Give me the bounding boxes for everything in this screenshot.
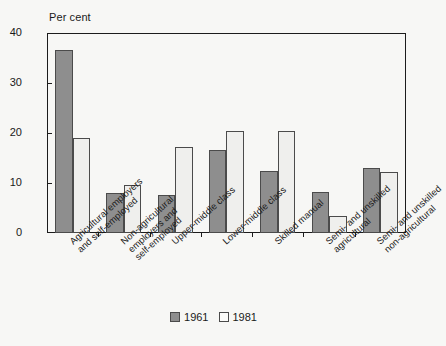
legend-label-1961: 1961 xyxy=(184,311,208,323)
y-axis-title: Per cent xyxy=(49,11,91,23)
bar-group xyxy=(47,33,98,233)
bar-1961-7 xyxy=(363,168,381,233)
x-axis-tick xyxy=(355,233,356,237)
legend-label-1981: 1981 xyxy=(233,311,257,323)
y-axis-tick-label: 20 xyxy=(0,126,22,138)
x-axis-tick xyxy=(252,233,253,237)
bar-1981-1 xyxy=(73,138,91,234)
bar-group xyxy=(150,33,201,233)
y-axis-tick-label: 10 xyxy=(0,176,22,188)
bar-1961-6 xyxy=(312,192,330,233)
bar-1981-5 xyxy=(278,131,296,233)
bar-1961-4 xyxy=(209,150,227,233)
bar-1961-1 xyxy=(55,50,73,233)
x-axis-tick xyxy=(98,233,99,237)
y-axis-tick-label: 0 xyxy=(0,226,22,238)
bar-group xyxy=(355,33,406,233)
legend-item-1981: 1981 xyxy=(219,311,257,323)
bar-1961-2 xyxy=(106,193,124,233)
bar-1981-3 xyxy=(175,147,193,233)
x-axis-tick xyxy=(303,233,304,237)
x-axis-tick xyxy=(150,233,151,237)
bar-group xyxy=(252,33,303,233)
bar-group xyxy=(303,33,354,233)
y-axis-tick-label: 40 xyxy=(0,26,22,38)
legend-swatch-1961 xyxy=(170,312,180,322)
bar-1981-6 xyxy=(329,216,347,233)
x-axis-tick xyxy=(201,233,202,237)
bar-group xyxy=(98,33,149,233)
legend-swatch-1981 xyxy=(219,312,229,322)
bar-1981-4 xyxy=(226,131,244,233)
bar-1981-7 xyxy=(380,172,398,233)
chart-legend: 1961 1981 xyxy=(0,311,427,323)
y-axis-tick-label: 30 xyxy=(0,76,22,88)
bar-1981-2 xyxy=(124,185,142,234)
legend-item-1961: 1961 xyxy=(170,311,208,323)
bar-1961-3 xyxy=(158,195,176,233)
bar-1961-5 xyxy=(260,171,278,233)
plot-area: 010203040 xyxy=(47,33,406,233)
bar-group xyxy=(201,33,252,233)
